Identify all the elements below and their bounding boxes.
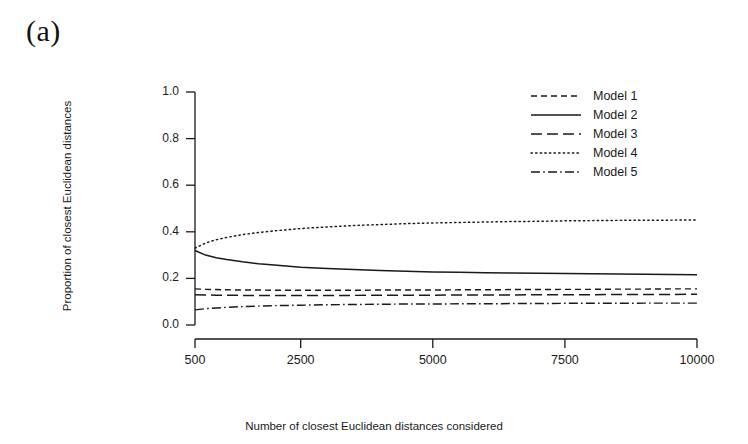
legend-item[interactable]: Model 1 xyxy=(530,86,710,105)
x-axis-title: Number of closest Euclidean distances co… xyxy=(0,420,748,432)
legend: Model 1Model 2Model 3Model 4Model 5 xyxy=(530,86,710,181)
y-axis-title: Proportion of closest Euclidean distance… xyxy=(61,76,73,336)
legend-label: Model 1 xyxy=(593,89,637,103)
series-line-model-4 xyxy=(195,220,697,248)
legend-line-sample-dashdot xyxy=(530,165,582,179)
legend-line-sample-solid xyxy=(530,108,582,122)
legend-line-sample-dotted xyxy=(530,146,582,160)
plot-area xyxy=(0,0,748,444)
legend-item[interactable]: Model 4 xyxy=(530,143,710,162)
x-tick-label: 5000 xyxy=(393,353,473,367)
legend-label: Model 2 xyxy=(593,108,637,122)
x-tick-label: 2500 xyxy=(261,353,341,367)
y-axis xyxy=(186,92,195,325)
x-tick-label: 10000 xyxy=(657,353,737,367)
x-axis xyxy=(195,339,697,348)
y-tick-label: 1.0 xyxy=(139,84,179,98)
y-tick-label: 0.2 xyxy=(139,270,179,284)
legend-item[interactable]: Model 2 xyxy=(530,105,710,124)
legend-line-sample-dashed xyxy=(530,89,582,103)
series-line-model-3 xyxy=(195,294,697,295)
y-tick-label: 0.6 xyxy=(139,177,179,191)
legend-label: Model 5 xyxy=(593,165,637,179)
legend-item[interactable]: Model 3 xyxy=(530,124,710,143)
x-tick-label: 7500 xyxy=(525,353,605,367)
y-tick-label: 0.4 xyxy=(139,224,179,238)
series-line-model-2 xyxy=(195,250,697,274)
series-group xyxy=(195,220,697,310)
series-line-model-5 xyxy=(195,303,697,310)
series-line-model-1 xyxy=(195,289,697,290)
panel-label: (a) xyxy=(26,14,61,48)
legend-label: Model 3 xyxy=(593,127,637,141)
figure-panel-a: (a) Proportion of closest Euclidean dist… xyxy=(0,0,748,444)
legend-line-sample-longdash xyxy=(530,127,582,141)
y-tick-label: 0.0 xyxy=(139,317,179,331)
x-tick-label: 500 xyxy=(155,353,235,367)
legend-item[interactable]: Model 5 xyxy=(530,162,710,181)
legend-label: Model 4 xyxy=(593,146,637,160)
y-tick-label: 0.8 xyxy=(139,131,179,145)
